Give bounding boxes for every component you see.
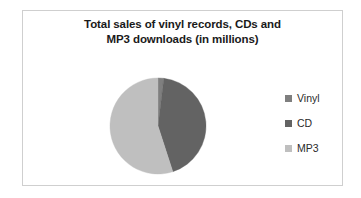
plot-area	[23, 67, 278, 187]
pie-chart[interactable]	[109, 77, 207, 175]
legend-item-vinyl[interactable]: Vinyl	[285, 86, 361, 111]
legend-label-cd: CD	[297, 118, 312, 129]
pie-chart-svg	[109, 77, 207, 175]
legend-label-vinyl: Vinyl	[297, 93, 320, 104]
legend-swatch-mp3	[285, 145, 292, 152]
legend-item-mp3[interactable]: MP3	[285, 136, 361, 161]
legend-item-cd[interactable]: CD	[285, 111, 361, 136]
legend-label-mp3: MP3	[297, 143, 319, 154]
legend-swatch-cd	[285, 120, 292, 127]
chart-title-line-2: MP3 downloads (in millions)	[23, 32, 342, 47]
pie-slice-group	[110, 78, 206, 174]
legend-swatch-vinyl	[285, 95, 292, 102]
chart-title: Total sales of vinyl records, CDs and MP…	[23, 17, 342, 47]
chart-frame: Total sales of vinyl records, CDs and MP…	[22, 10, 343, 186]
chart-title-line-1: Total sales of vinyl records, CDs and	[23, 17, 342, 32]
chart-legend: Vinyl CD MP3	[285, 86, 361, 161]
